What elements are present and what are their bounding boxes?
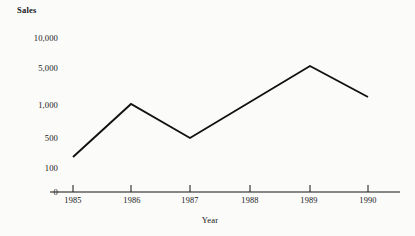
sales-data-line	[73, 66, 368, 157]
x-tick-label-1989: 1989	[281, 197, 337, 205]
y-tick-label-100: 100	[12, 164, 58, 173]
y-tick-label-0: 0	[12, 188, 58, 197]
x-axis-ticks	[73, 185, 368, 192]
x-tick-label-1987: 1987	[162, 197, 218, 205]
y-axis-title: Sales	[17, 6, 36, 15]
x-tick-label-1990: 1990	[340, 197, 396, 205]
chart-figure: Sales 10,000 5,000 1,000 500 100 0 1985 …	[0, 0, 415, 236]
y-tick-label-10000: 10,000	[12, 34, 58, 43]
y-tick-label-1000: 1,000	[12, 101, 58, 110]
y-tick-label-5000: 5,000	[12, 64, 58, 73]
x-tick-label-1988: 1988	[222, 197, 278, 205]
x-tick-label-1985: 1985	[45, 197, 101, 205]
x-axis-title: Year	[170, 216, 250, 225]
y-tick-label-500: 500	[12, 134, 58, 143]
x-tick-label-1986: 1986	[104, 197, 160, 205]
